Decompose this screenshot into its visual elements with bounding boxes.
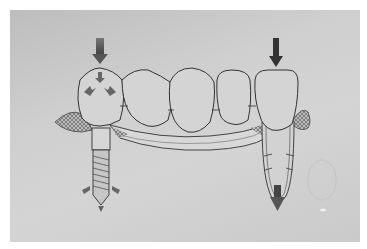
load-arrow-implant xyxy=(92,38,108,64)
load-arrow-tooth xyxy=(269,38,283,67)
natural-tooth-crown xyxy=(255,70,298,130)
dental-bridge-diagram xyxy=(10,10,360,242)
pontic-2 xyxy=(169,68,214,132)
figure-photo xyxy=(10,10,360,242)
pontic-3 xyxy=(217,70,251,125)
implant-abutment xyxy=(92,128,110,150)
pontic-1 xyxy=(122,70,172,127)
figure-caption xyxy=(0,243,367,249)
bone-right xyxy=(293,110,310,129)
